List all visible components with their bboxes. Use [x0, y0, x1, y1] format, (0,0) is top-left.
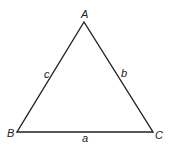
triangle-abc	[17, 22, 153, 132]
side-label-c: c	[44, 68, 50, 80]
vertex-label-c: C	[155, 129, 163, 141]
vertex-label-b: B	[7, 127, 14, 139]
triangle-svg: A B C a b c	[0, 0, 170, 147]
side-label-b: b	[121, 67, 127, 79]
triangle-diagram: A B C a b c	[0, 0, 170, 147]
side-label-a: a	[82, 132, 88, 144]
vertex-label-a: A	[80, 8, 88, 20]
